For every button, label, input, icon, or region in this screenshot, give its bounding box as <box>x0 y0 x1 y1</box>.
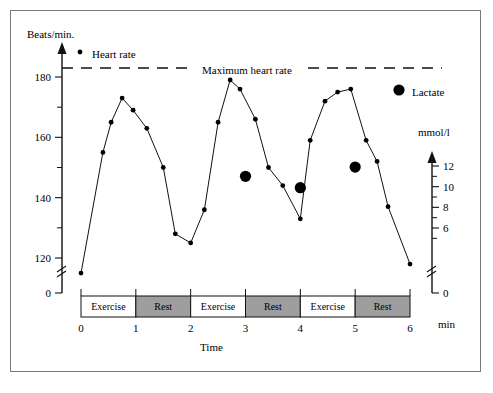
y-axis-left-tick-label: 140 <box>35 192 52 204</box>
heart-rate-data-point <box>238 87 243 92</box>
heart-rate-data-point <box>202 207 207 212</box>
y-axis-left-tick-label: 160 <box>35 131 52 143</box>
y-axis-left-tick-label: 180 <box>35 71 52 83</box>
x-axis-tick-label: 1 <box>133 322 139 334</box>
x-axis-tick-label: 3 <box>243 322 249 334</box>
activity-band-label: Exercise <box>311 301 346 312</box>
heart-rate-data-point <box>323 99 328 104</box>
lactate-data-point <box>240 171 251 182</box>
x-axis-tick-label: 4 <box>298 322 304 334</box>
heart-rate-data-point <box>216 120 221 125</box>
heart-rate-data-point <box>280 183 285 188</box>
heart-rate-data-point <box>408 262 413 267</box>
heart-rate-data-point <box>266 165 271 170</box>
heart-rate-data-point <box>131 108 136 113</box>
heart-rate-data-point <box>161 165 166 170</box>
heart-rate-data-point <box>335 90 340 95</box>
x-axis-tick-label: 2 <box>188 322 194 334</box>
x-axis-tick-label: 6 <box>407 322 413 334</box>
heart-rate-data-point <box>120 96 125 101</box>
heart-rate-data-point <box>308 138 313 143</box>
legend-marker-heart-rate <box>78 50 83 55</box>
lactate-data-point <box>295 182 306 193</box>
y-axis-right-tick-label: 8 <box>443 201 449 213</box>
heart-rate-data-point <box>101 150 106 155</box>
heart-rate-data-point <box>109 120 114 125</box>
chart-svg: 12014016018006810120ExerciseRestExercise… <box>0 0 493 393</box>
heart-rate-data-point <box>144 126 149 131</box>
legend-marker-lactate <box>393 84 404 95</box>
heart-rate-data-point <box>298 216 303 221</box>
heart-rate-data-point <box>228 78 233 83</box>
heart-rate-data-point <box>79 271 84 276</box>
x-axis-tick-label: 5 <box>352 322 358 334</box>
y-axis-right-tick-label: 10 <box>443 181 455 193</box>
y-axis-right-arrowhead <box>428 151 437 163</box>
y-axis-right-tick-label: 12 <box>443 160 454 172</box>
heart-rate-data-point <box>364 138 369 143</box>
heart-rate-data-point <box>386 204 391 209</box>
heart-rate-data-point <box>348 87 353 92</box>
lactate-data-point <box>350 161 361 172</box>
heart-rate-data-point <box>375 159 380 164</box>
activity-band-label: Exercise <box>91 301 126 312</box>
activity-band-label: Rest <box>374 301 392 312</box>
y-axis-left-tick-label: 120 <box>35 252 52 264</box>
heart-rate-data-point <box>253 117 258 122</box>
chart-page: Beats/min. mmol/l Time min Heart rate La… <box>0 0 493 393</box>
activity-band-label: Rest <box>264 301 282 312</box>
heart-rate-data-point <box>188 241 193 246</box>
x-axis-tick-label: 0 <box>78 322 84 334</box>
y-axis-left-zero-label: 0 <box>46 287 52 299</box>
y-axis-right-tick-label: 6 <box>443 222 449 234</box>
activity-band-label: Rest <box>154 301 172 312</box>
heart-rate-data-point <box>173 231 178 236</box>
y-axis-left-arrowhead <box>58 42 67 54</box>
activity-band-label: Exercise <box>201 301 236 312</box>
y-axis-right-zero-label: 0 <box>443 287 449 299</box>
